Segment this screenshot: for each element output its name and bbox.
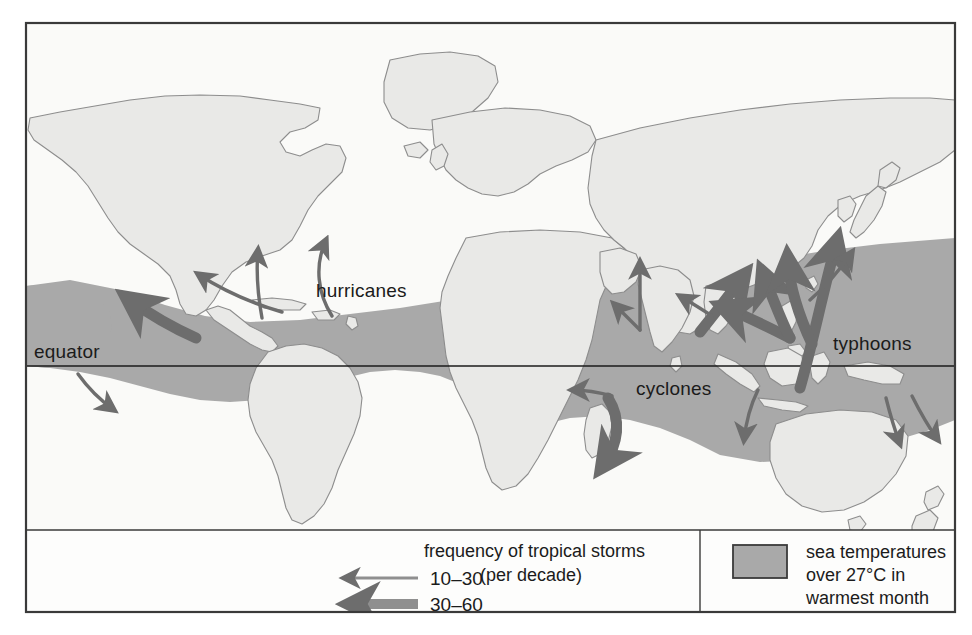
world-map-svg: equator hurricanes typhoons cyclones fre…	[0, 0, 972, 635]
tropical-storms-map-figure: equator hurricanes typhoons cyclones fre…	[0, 0, 972, 635]
legend-sea-temp-line2: over 27°C in	[806, 565, 905, 585]
map-canvas: equator hurricanes typhoons cyclones fre…	[26, 23, 955, 615]
legend-sea-temp-line1: sea temperatures	[806, 542, 946, 562]
legend-thin-arrow-label: 10–30	[430, 568, 483, 589]
label-cyclones: cyclones	[636, 378, 712, 399]
label-hurricanes: hurricanes	[316, 280, 407, 301]
legend-sea-temperature-swatch	[733, 545, 787, 578]
label-equator: equator	[34, 341, 100, 362]
legend-sea-temp-line3: warmest month	[805, 588, 929, 608]
legend-frequency-title-line2: (per decade)	[480, 565, 582, 585]
legend: frequency of tropical storms (per decade…	[26, 530, 955, 615]
label-typhoons: typhoons	[833, 333, 912, 354]
legend-frequency-title-line1: frequency of tropical storms	[424, 541, 645, 561]
